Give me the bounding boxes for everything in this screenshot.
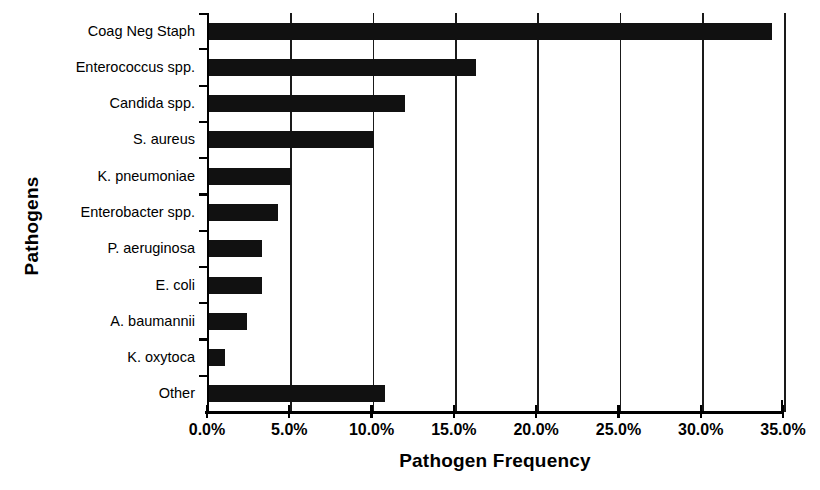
bar-chart-figure: Pathogens Coag Neg StaphEnterococcus spp… [0, 0, 820, 490]
y-axis-tick-mark [199, 375, 207, 377]
x-axis-tick-mark [453, 405, 455, 418]
y-axis-tick-label: K. oxytoca [127, 347, 195, 367]
bar [209, 59, 476, 76]
gridline [702, 13, 704, 412]
y-axis-top-cap [199, 13, 208, 15]
y-axis-tick-mark [199, 157, 207, 159]
x-axis-tick-mark [206, 405, 208, 418]
y-axis-tick-label: P. aeruginosa [107, 238, 195, 258]
x-axis-line [205, 411, 784, 414]
x-axis-title: Pathogen Frequency [207, 450, 783, 472]
x-axis-tick-label: 35.0% [738, 421, 820, 439]
y-axis-tick-labels: Coag Neg StaphEnterococcus spp.Candida s… [30, 13, 202, 412]
x-axis-tick-mark [782, 405, 784, 418]
gridline [620, 13, 622, 412]
y-axis-tick-label: S. aureus [133, 129, 195, 149]
x-axis-tick-label: 10.0% [327, 421, 417, 439]
bar [209, 131, 374, 148]
x-axis-tick-mark [370, 405, 372, 418]
bar [209, 313, 247, 330]
x-axis-tick-label: 15.0% [409, 421, 499, 439]
gridline [537, 13, 539, 412]
bar [209, 23, 772, 40]
gridline [784, 13, 786, 412]
y-axis-tick-mark [199, 48, 207, 50]
bar [209, 168, 291, 185]
y-axis-tick-label: Enterobacter spp. [81, 202, 195, 222]
x-axis-tick-label: 0.0% [162, 421, 252, 439]
y-axis-tick-mark [199, 121, 207, 123]
bar [209, 277, 262, 294]
y-axis-tick-label: Coag Neg Staph [88, 21, 195, 41]
y-axis-tick-label: Enterococcus spp. [76, 57, 195, 77]
x-axis-tick-mark [700, 405, 702, 418]
y-axis-tick-mark [199, 266, 207, 268]
x-axis-tick-mark [288, 405, 290, 418]
x-axis-tick-label: 30.0% [656, 421, 746, 439]
y-axis-tick-label: K. pneumoniae [97, 166, 195, 186]
y-axis-tick-label: Other [159, 383, 195, 403]
y-axis-tick-mark [199, 230, 207, 232]
bar [209, 95, 405, 112]
x-axis-tick-mark [535, 405, 537, 418]
plot-area [207, 13, 783, 412]
x-axis-tick-label: 5.0% [244, 421, 334, 439]
y-axis-tick-mark [199, 338, 207, 340]
y-axis-tick-label: A. baumannii [110, 311, 195, 331]
y-axis-tick-mark [199, 193, 207, 195]
x-axis-tick-mark [617, 405, 619, 418]
bar [209, 385, 385, 402]
bar [209, 349, 225, 366]
x-axis-tick-label: 20.0% [491, 421, 581, 439]
y-axis-tick-label: Candida spp. [110, 93, 195, 113]
bar [209, 204, 278, 221]
y-axis-tick-label: E. coli [156, 275, 196, 295]
x-axis-tick-label: 25.0% [573, 421, 663, 439]
y-axis-tick-mark [199, 85, 207, 87]
bar [209, 240, 262, 257]
y-axis-tick-mark [199, 302, 207, 304]
